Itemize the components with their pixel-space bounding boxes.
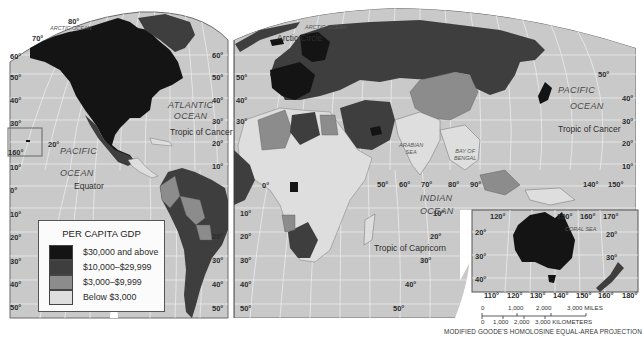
lat-label: 40° [622, 94, 633, 103]
eastern-lobe [234, 8, 640, 338]
lon-label: 60° [399, 180, 410, 189]
arctic-circle-label: Arctic Circle [277, 33, 322, 43]
lon-label: 120° [507, 291, 523, 300]
lat-label: 40° [240, 280, 251, 289]
lat-label: 10° [10, 210, 21, 219]
lat-label: 60° [212, 51, 223, 60]
indian-ocean-label-1: INDIAN [420, 193, 452, 204]
tropic-of-cancer-east-label: Tropic of Cancer [558, 124, 621, 134]
pacific-ocean-east-label-1: PACIFIC [558, 85, 595, 96]
lon-label: 120° [490, 212, 506, 221]
lat-label: 50° [598, 70, 609, 79]
lat-label: 60° [10, 52, 21, 61]
lon-label: 160° [580, 212, 596, 221]
atlantic-ocean-label: ATLANTIC OCEAN [168, 100, 213, 122]
lon-label: 170° [603, 212, 619, 221]
legend-swatch-3000-9999 [49, 275, 73, 290]
lon-label: 80° [448, 180, 459, 189]
hawaii-lat-label: 20° [48, 140, 59, 149]
lat-label: 40° [10, 96, 21, 105]
lat-label: 10° [622, 162, 633, 171]
lat-label: 20° [606, 230, 617, 239]
lon-label: 150° [608, 180, 624, 189]
lat-label: 20° [430, 232, 441, 241]
lat-label: 40° [212, 96, 223, 105]
lat-label: 30° [240, 256, 251, 265]
legend-label: $3,000–$9,999 [83, 277, 142, 287]
lat-label: 50° [10, 303, 21, 312]
lat-label: 80° [68, 17, 79, 26]
legend-swatch-below-3000 [49, 290, 73, 305]
lon-label: 70° [421, 180, 432, 189]
lat-label: 30° [212, 117, 223, 126]
lon-label: 180° [622, 291, 638, 300]
lat-label: 30° [10, 257, 21, 266]
lat-label: 30° [622, 117, 633, 126]
projection-label: MODIFIED GOODE'S HOMOLOSINE EQUAL-AREA P… [444, 328, 642, 335]
lat-label: 0° [10, 186, 17, 195]
arctic-ocean-east-label: ARCTIC OCEAN [305, 24, 347, 31]
legend-label: $30,000 and above [83, 247, 158, 257]
lat-label: 20° [212, 139, 223, 148]
lat-label: 20° [212, 232, 223, 241]
legend-swatch-10000-29999 [49, 260, 73, 275]
lat-label: 20° [240, 232, 251, 241]
lat-label: 50° [10, 73, 21, 82]
hawaii-lon-label: 160° [8, 148, 24, 157]
lat-label: 10° [212, 162, 223, 171]
lat-label: 10° [10, 163, 21, 172]
lat-label: 20° [10, 233, 21, 242]
lon-label: 130° [530, 291, 546, 300]
tropic-of-cancer-west-label: Tropic of Cancer [170, 127, 233, 137]
lon-label: 90° [470, 180, 481, 189]
lat-label: 30° [475, 252, 486, 261]
equator-label: Equator [74, 181, 104, 191]
lat-label: 40° [405, 280, 416, 289]
lat-label: 0° [262, 181, 269, 190]
pacific-ocean-east-label-2: OCEAN [570, 101, 604, 112]
lon-label: 50° [377, 180, 388, 189]
lat-label: 30° [420, 256, 431, 265]
coral-sea-label: CORAL SEA [565, 226, 596, 233]
lon-label: 110° [484, 291, 499, 300]
bay-of-bengal-label: BAY OF BENGAL [454, 148, 476, 162]
pacific-ocean-west-label-1: PACIFIC [60, 146, 97, 157]
tropic-of-capricorn-label: Tropic of Capricorn [374, 243, 446, 253]
lat-label: 10° [433, 209, 444, 218]
lat-label: 40° [10, 280, 21, 289]
lat-label: 30° [606, 253, 617, 262]
arabian-sea-label: ARABIAN SEA [399, 142, 423, 156]
lat-label: 50° [236, 73, 247, 82]
legend-swatch-above-30000 [49, 245, 73, 260]
lat-label: 30° [212, 256, 223, 265]
lon-label: 140° [553, 291, 569, 300]
lat-label: 20° [475, 228, 486, 237]
lat-label: 50° [393, 304, 404, 313]
lon-label: 140° [583, 180, 599, 189]
lat-label: 70° [32, 34, 43, 43]
lat-label: 40° [212, 280, 223, 289]
lat-label: 40° [475, 275, 486, 284]
arctic-ocean-west-label: ARCTIC OCEAN [50, 25, 92, 32]
legend-title: PER CAPITA GDP [39, 228, 164, 239]
lon-label: 160° [598, 291, 614, 300]
lat-label: 40° [236, 96, 247, 105]
legend-label: $10,000–$29,999 [83, 262, 152, 272]
lat-label: 50° [212, 304, 223, 313]
pacific-ocean-west-label-2: OCEAN [60, 168, 94, 179]
legend: PER CAPITA GDP $30,000 and above $10,000… [38, 220, 165, 312]
lat-label: 30° [236, 117, 247, 126]
lat-label: 30° [10, 119, 21, 128]
lat-label: 50° [212, 73, 223, 82]
lat-label: 20° [622, 139, 633, 148]
lon-label: 150° [576, 291, 592, 300]
lon-label: 150° [557, 212, 573, 221]
lat-label: 10° [240, 209, 251, 218]
legend-label: Below $3,000 [83, 292, 136, 302]
lat-label: 50° [240, 304, 251, 313]
